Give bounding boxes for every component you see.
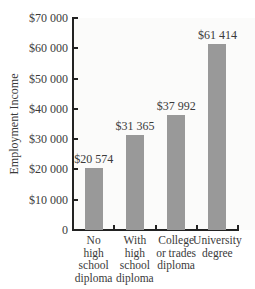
x-tick [155,225,157,230]
x-category-label: University degree [193,234,242,259]
x-category-label: College or trades diploma [156,234,196,272]
bar-chart: Employment Income 0$10 000$20 000$30 000… [0,0,255,289]
bar-value-label: $31 365 [115,120,154,132]
y-tick-label: $50 000 [29,73,68,85]
y-tick-label: $40 000 [29,103,68,115]
x-tick [237,225,239,230]
x-category-label: No high school diploma [75,234,113,284]
y-tick-label: $60 000 [29,42,68,54]
y-axis-title-text: Employment Income [7,74,22,175]
bar [208,44,226,230]
y-axis-line [72,18,74,231]
y-tick-label: $20 000 [29,163,68,175]
bar [167,115,185,230]
x-tick [196,225,198,230]
y-tick-label: $30 000 [29,133,68,145]
x-tick [113,225,115,230]
y-tick-label: 0 [62,224,68,236]
x-category-label: With high school diploma [116,234,154,284]
bar [85,168,103,230]
y-tick-label: $10 000 [29,194,68,206]
bar [126,135,144,230]
bar-value-label: $37 992 [157,100,196,112]
bar-value-label: $20 574 [74,153,113,165]
bar-value-label: $61 414 [198,29,237,41]
y-tick-label: $70 000 [29,12,68,24]
